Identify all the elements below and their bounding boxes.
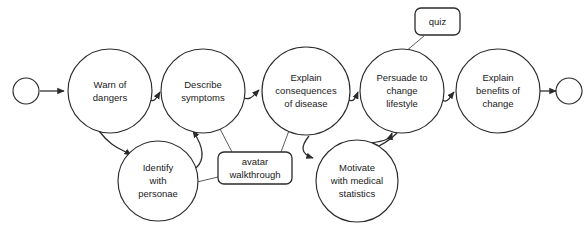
node-explain-benefits[interactable]: Explain benefits of change (456, 49, 540, 133)
note-quiz[interactable]: quiz (415, 8, 460, 35)
edge-motivate-to-persuade (370, 133, 392, 143)
node-persuade-change-lifestyle[interactable]: Persuade to change lifestyle (360, 49, 444, 133)
node-persuade-label-line1: Persuade to (376, 72, 427, 83)
node-persuade-label-line3: lifestyle (386, 98, 418, 109)
node-motivate-label-line2: with medical (330, 175, 383, 186)
edge-warn-to-identify (99, 131, 131, 155)
node-identify-label-line2: with (149, 175, 167, 186)
node-warn-of-dangers-label-line2: dangers (93, 92, 128, 103)
node-explain-consequences-label-line1: Explain (290, 72, 321, 83)
node-describe-symptoms-label-line2: symptoms (181, 92, 225, 103)
edge-identify-to-describe (193, 131, 202, 168)
end-node[interactable] (556, 78, 582, 104)
node-explain-consequences-label-line2: consequences (275, 85, 337, 96)
note-quiz-label: quiz (429, 16, 447, 27)
node-identify-with-personae[interactable]: Identify with personae (118, 141, 198, 221)
note-avatar-label-line1: avatar (242, 156, 268, 167)
node-describe-symptoms-label-line1: Describe (184, 79, 222, 90)
node-explain-consequences[interactable]: Explain consequences of disease (262, 47, 350, 135)
node-explain-benefits-label-line1: Explain (482, 72, 513, 83)
note-avatar-walkthrough[interactable]: avatar walkthrough (218, 152, 292, 184)
node-motivate-label-line1: Motivate (339, 162, 375, 173)
note-link-avatar-describe (219, 127, 232, 152)
node-explain-benefits-label-line2: benefits of (476, 85, 520, 96)
node-motivate-label-line3: statistics (339, 188, 376, 199)
node-layer: Warn of dangers Describe symptoms Explai… (13, 47, 582, 222)
node-identify-label-line3: personae (138, 188, 178, 199)
node-identify-label-line1: Identify (143, 162, 174, 173)
node-motivate-medical-statistics[interactable]: Motivate with medical statistics (316, 140, 398, 222)
edge-consequences-to-motivate (303, 136, 313, 158)
node-explain-consequences-label-line3: of disease (284, 98, 327, 109)
node-explain-benefits-label-line3: change (482, 98, 513, 109)
flow-diagram-svg: Warn of dangers Describe symptoms Explai… (0, 0, 587, 231)
node-persuade-label-line2: change (386, 85, 417, 96)
node-warn-of-dangers[interactable]: Warn of dangers (68, 49, 152, 133)
start-node[interactable] (13, 78, 39, 104)
note-avatar-label-line2: walkthrough (228, 169, 280, 180)
node-warn-of-dangers-label-line1: Warn of (94, 79, 127, 90)
diagram-canvas: Warn of dangers Describe symptoms Explai… (0, 0, 587, 231)
node-describe-symptoms[interactable]: Describe symptoms (161, 49, 245, 133)
